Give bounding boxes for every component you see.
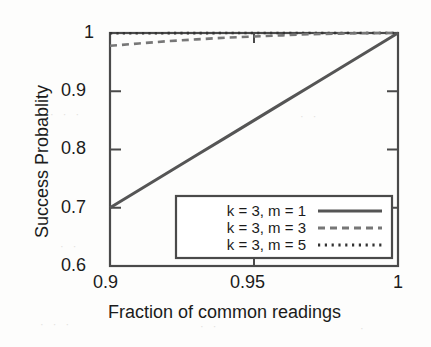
y-tick-label-1: 1	[84, 22, 94, 43]
y-tick-label-0-8: 0.8	[61, 138, 86, 159]
y-tick-label-0-9: 0.9	[61, 80, 86, 101]
legend-label-k3-m5: k = 3, m = 5	[196, 236, 306, 253]
series-line-k3-m1	[110, 33, 398, 208]
x-tick-label-0-9: 0.9	[93, 272, 118, 293]
data-series-group	[110, 33, 398, 208]
y-axis-title: Success Probablity	[32, 85, 53, 238]
x-axis-title: Fraction of common readings	[108, 302, 341, 323]
legend-label-k3-m1: k = 3, m = 1	[196, 202, 306, 219]
plot-canvas	[0, 0, 431, 347]
chart-figure: · · · · · · · · · · · · · ·	[0, 0, 431, 347]
y-tick-label-0-7: 0.7	[61, 197, 86, 218]
x-tick-label-0-95: 0.95	[230, 272, 265, 293]
legend-label-k3-m3: k = 3, m = 3	[196, 219, 306, 236]
x-tick-label-1: 1	[393, 272, 403, 293]
y-tick-label-0-6: 0.6	[61, 255, 86, 276]
